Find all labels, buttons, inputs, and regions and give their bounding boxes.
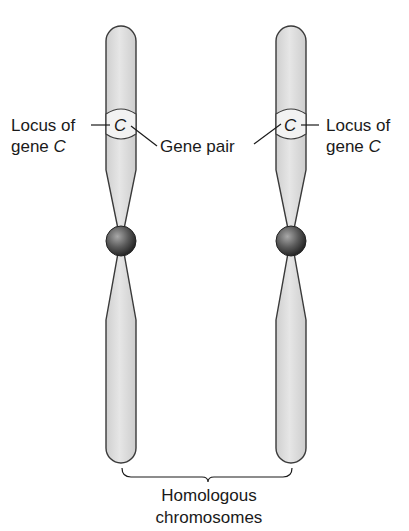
right-gene-letter: C [284,116,297,135]
right-chromosome: C [276,26,306,463]
left-gene-letter: C [114,116,127,135]
homologous-chromosomes-diagram: C C Locus of gene C Gene pair Locus of g… [0,0,409,531]
svg-text:gene C: gene C [326,137,382,156]
left-locus-label: Locus of gene C [11,116,76,156]
homologous-label-line1: Homologous [161,486,256,505]
right-locus-label: Locus of gene C [326,116,391,156]
gene-pair-label: Gene pair [160,137,235,156]
left-chromosome: C [106,26,136,463]
svg-text:gene C: gene C [11,137,67,156]
svg-text:Locus of: Locus of [326,116,391,135]
right-centromere [276,226,306,256]
homologous-label-line2: chromosomes [156,508,263,527]
left-chromosome-lower-arm [106,253,136,463]
left-centromere [106,226,136,256]
svg-text:Locus of: Locus of [11,116,76,135]
homologous-brace [122,468,292,482]
right-chromosome-lower-arm [276,253,306,463]
